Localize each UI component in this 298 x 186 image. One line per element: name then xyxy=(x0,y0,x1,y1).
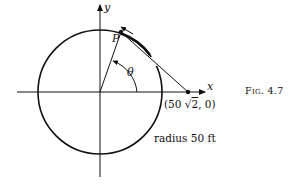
motion-arc xyxy=(121,34,150,55)
sqrt-symbol: √ xyxy=(185,98,192,110)
fixed-point-label: (50 √2, 0) xyxy=(164,99,216,110)
fixed-point-label-prefix: (50 xyxy=(164,98,185,110)
figure-caption: Fig. 4.7 xyxy=(245,86,284,96)
fixed-point-dot xyxy=(186,90,190,94)
radius-label: radius 50 ft xyxy=(154,133,216,144)
sight-line xyxy=(121,32,188,92)
theta-label: θ xyxy=(127,67,134,78)
point-p-dot xyxy=(119,30,123,34)
x-axis-label: x xyxy=(207,81,213,92)
fixed-point-label-suffix: , 0) xyxy=(198,98,215,110)
figure-4-7: y x P θ (50 √2, 0) radius 50 ft Fig. 4.7 xyxy=(0,0,298,186)
y-axis-label: y xyxy=(104,2,110,13)
point-p-label: P xyxy=(112,33,119,44)
